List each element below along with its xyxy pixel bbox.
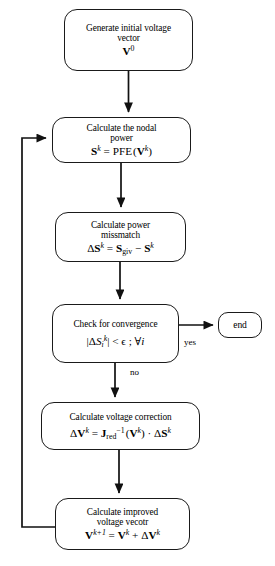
node-calculate-improved-voltage: Calculate improved voltage vecotr Vk+1 =… — [55, 498, 190, 550]
node-mismatch-line-2: missmatch — [101, 230, 140, 241]
node-mismatch-formula: ΔSk = Sgiv − Sk — [87, 242, 154, 255]
edge-label-no: no — [130, 367, 139, 377]
flowchart-connectors — [0, 0, 275, 566]
node-calculate-power-mismatch: Calculate power missmatch ΔSk = Sgiv − S… — [55, 212, 186, 262]
node-mismatch-line-1: Calculate power — [91, 220, 150, 231]
node-nodal-line-1: Calculate the nodal — [87, 123, 157, 134]
node-end-terminal: end — [218, 312, 262, 338]
connector-improved-to-nodal-feedback — [22, 138, 55, 527]
node-calculate-voltage-correction: Calculate voltage correction ΔVk = Jred−… — [41, 402, 200, 450]
node-end-label: end — [233, 320, 247, 331]
node-improved-line-1: Calculate improved — [87, 507, 158, 518]
flowchart-canvas: Generate initial voltage vector V0 Calcu… — [0, 0, 275, 566]
edge-label-yes: yes — [184, 337, 196, 347]
node-nodal-line-2: power — [110, 133, 133, 144]
node-start-line-1: Generate initial voltage — [86, 23, 171, 34]
node-correction-formula: ΔVk = Jred−1 (Vk) · ΔSk — [70, 427, 171, 440]
node-start-line-2: vector — [117, 33, 140, 44]
node-improved-formula: Vk+1 = Vk + ΔVk — [85, 529, 160, 542]
node-check-formula: |ΔSik| < ϵ ; ∀i — [87, 335, 145, 348]
node-generate-initial-voltage: Generate initial voltage vector V0 — [64, 9, 193, 71]
node-improved-line-2: voltage vecotr — [97, 517, 149, 528]
node-correction-line-1: Calculate voltage correction — [70, 412, 172, 423]
node-check-convergence: Check for convergence |ΔSik| < ϵ ; ∀i — [52, 304, 179, 363]
node-start-formula: V0 — [122, 45, 134, 58]
node-check-line-1: Check for convergence — [74, 319, 158, 330]
node-calculate-nodal-power: Calculate the nodal power Sk = PFE (Vk) — [52, 117, 191, 163]
node-nodal-formula: Sk = PFE (Vk) — [91, 145, 152, 158]
